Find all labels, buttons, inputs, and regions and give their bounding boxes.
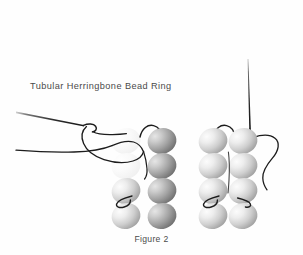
bead [144, 174, 179, 207]
bead [195, 174, 230, 207]
right-needle [245, 59, 254, 139]
bead [144, 199, 179, 232]
figure-container: Tubular Herringbone Bead Ring Figure 2 [0, 0, 303, 255]
bead [195, 199, 230, 232]
bead [225, 124, 260, 157]
right-cluster-inner-thread [228, 152, 229, 193]
page-title: Tubular Herringbone Bead Ring [30, 80, 172, 92]
right-cluster [195, 124, 260, 232]
bead [195, 124, 230, 157]
bead [144, 124, 179, 157]
ghost-bead [108, 149, 143, 182]
bead [108, 174, 143, 207]
bead [225, 149, 260, 182]
bead [225, 174, 260, 207]
bead [195, 149, 230, 182]
bead [108, 199, 143, 232]
figure-caption: Figure 2 [0, 234, 303, 244]
bead [144, 149, 179, 182]
bead-illustration [0, 0, 303, 255]
bead [225, 199, 260, 232]
